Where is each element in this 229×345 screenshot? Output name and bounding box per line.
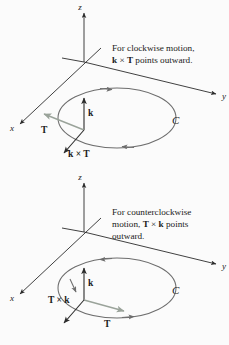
x-axis-label: x: [9, 123, 14, 133]
tangent-vector-label: T: [41, 125, 48, 135]
z-axis-label: z: [77, 2, 82, 12]
caption-line-1: For clockwise motion,: [112, 43, 194, 53]
tangent-vector-label: T: [104, 319, 111, 329]
caption-line-2: k × T points outward.: [112, 55, 193, 65]
caption-line-1: For counterclockwise: [112, 207, 191, 217]
x-axis-label: x: [9, 293, 14, 303]
orientation-figure: z y x C k T k × T For clockwise motion, …: [0, 0, 229, 345]
y-axis-label: y: [221, 261, 226, 271]
k-vector-label: k: [88, 278, 94, 288]
caption-line-2: motion, T × k points: [112, 219, 189, 229]
curve-label-c: C: [172, 284, 180, 296]
z-axis-label: z: [77, 172, 82, 182]
y-axis-label: y: [221, 91, 226, 101]
curve-label-c: C: [172, 114, 180, 126]
k-cross-t-vector-label: k × T: [68, 149, 90, 159]
caption-line-3: outward.: [112, 231, 144, 241]
k-vector-label: k: [88, 108, 94, 118]
t-cross-k-vector-label: T × k: [48, 295, 70, 305]
